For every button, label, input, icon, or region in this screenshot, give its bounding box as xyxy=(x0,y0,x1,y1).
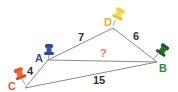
point-label-d: D xyxy=(104,17,112,28)
segment-label-cb: 15 xyxy=(93,75,105,86)
segment-label-ad: 7 xyxy=(78,32,84,43)
point-label-b: B xyxy=(159,63,167,74)
segment-cb xyxy=(25,62,157,88)
point-label-a: A xyxy=(35,53,43,64)
point-label-c: C xyxy=(8,81,16,92)
segment-label-ac: 4 xyxy=(27,66,33,77)
triangle-diagram xyxy=(0,0,178,92)
segment-label-db: 6 xyxy=(133,31,139,42)
segment-label-ab: ? xyxy=(100,48,107,59)
segment-ab xyxy=(48,60,157,62)
